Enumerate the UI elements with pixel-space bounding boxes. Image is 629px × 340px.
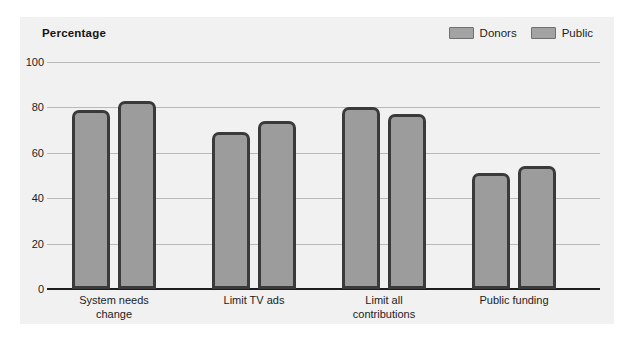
x-axis-label-line: Public funding	[442, 293, 586, 307]
y-axis-tick-label: 40	[0, 192, 44, 204]
x-axis-label-line: change	[42, 307, 186, 321]
bar-public-1	[258, 121, 296, 289]
bar-donors-2	[342, 107, 380, 289]
bar-chart-figure: Percentage Donors Public 020406080100Sys…	[0, 0, 629, 340]
y-axis-tick-label: 20	[0, 238, 44, 250]
x-axis-category-label: Limit allcontributions	[312, 293, 456, 321]
bar-public-2	[388, 114, 426, 289]
y-axis-tick-label: 80	[0, 101, 44, 113]
bar-public-0	[118, 101, 156, 289]
y-axis-tick-label: 100	[0, 56, 44, 68]
x-axis-category-label: System needschange	[42, 293, 186, 321]
x-axis-label-line: contributions	[312, 307, 456, 321]
x-axis-category-label: Limit TV ads	[182, 293, 326, 307]
x-axis-label-line: System needs	[42, 293, 186, 307]
bar-donors-1	[212, 132, 250, 289]
y-axis-tick-label: 0	[0, 283, 44, 295]
plot-area: 020406080100System needschangeLimit TV a…	[0, 0, 629, 340]
x-axis-label-line: Limit TV ads	[182, 293, 326, 307]
bar-donors-0	[72, 110, 110, 289]
gridline-100	[47, 62, 600, 63]
x-axis-label-line: Limit all	[312, 293, 456, 307]
x-axis-category-label: Public funding	[442, 293, 586, 307]
bar-public-3	[518, 166, 556, 289]
bar-donors-3	[472, 173, 510, 289]
y-axis-tick-label: 60	[0, 147, 44, 159]
